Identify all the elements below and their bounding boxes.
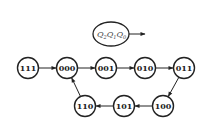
state-label: 001 <box>98 63 115 73</box>
state-label: 000 <box>59 63 76 73</box>
legend-label: Q2Q1Q0 <box>97 30 127 40</box>
legend: Q2Q1Q0 <box>93 22 145 46</box>
state-node-001: 001 <box>96 58 117 79</box>
state-node-101: 101 <box>114 96 135 117</box>
diagram-canvas: Q2Q1Q0 111000001010011100101110 <box>0 0 211 124</box>
state-node-010: 010 <box>135 58 156 79</box>
transition-arrow-011-to-100 <box>168 77 179 96</box>
state-node-000: 000 <box>57 58 78 79</box>
state-label: 101 <box>116 101 133 111</box>
state-label: 111 <box>20 63 37 73</box>
states: 111000001010011100101110 <box>18 58 195 117</box>
state-node-011: 011 <box>174 58 195 79</box>
state-label: 011 <box>176 63 193 73</box>
state-node-100: 100 <box>153 96 174 117</box>
transition-arrow-110-to-000 <box>72 78 81 97</box>
state-node-110: 110 <box>75 96 96 117</box>
state-node-111: 111 <box>18 58 39 79</box>
state-label: 110 <box>77 101 94 111</box>
state-diagram: Q2Q1Q0 111000001010011100101110 <box>0 0 211 124</box>
state-label: 010 <box>137 63 154 73</box>
state-label: 100 <box>155 101 172 111</box>
